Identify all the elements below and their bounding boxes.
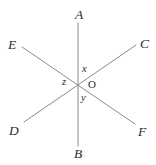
- geometry-figure: A C E D F B x z y O: [0, 0, 156, 165]
- line-DC: [24, 45, 136, 122]
- label-A: A: [75, 8, 83, 22]
- label-F: F: [138, 125, 146, 139]
- figure-canvas: [0, 0, 156, 165]
- figure-lines: [22, 23, 136, 146]
- label-D: D: [9, 124, 19, 138]
- label-y: y: [81, 93, 86, 104]
- label-C: C: [140, 37, 149, 51]
- label-E: E: [8, 38, 16, 52]
- label-x: x: [82, 64, 87, 75]
- label-z: z: [62, 77, 66, 88]
- label-B: B: [74, 147, 82, 161]
- label-O: O: [88, 79, 96, 90]
